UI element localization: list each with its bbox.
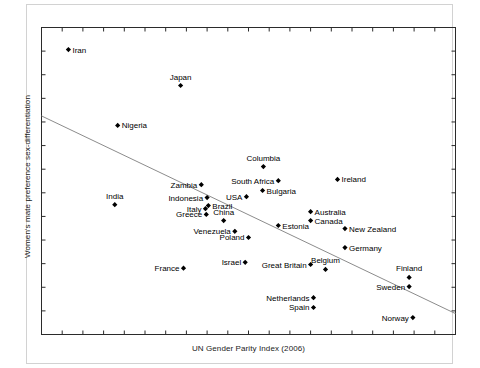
data-point <box>178 83 183 88</box>
data-point-label: Poland <box>220 233 245 242</box>
data-point <box>311 295 316 300</box>
data-point <box>243 260 248 265</box>
data-point <box>410 315 415 320</box>
data-point-label: USA <box>226 192 242 201</box>
data-point-label: France <box>155 264 180 273</box>
data-point <box>276 178 281 183</box>
data-point-label: Nigeria <box>122 121 147 130</box>
data-point <box>115 123 120 128</box>
data-point-label: Zambia <box>171 180 198 189</box>
data-point-label: Australia <box>315 207 346 216</box>
data-point <box>407 275 412 280</box>
chart-page: IranJapanNigeriaColumbiaSouth AfricaIrel… <box>0 0 480 368</box>
data-point <box>335 177 340 182</box>
data-point-label: Israel <box>222 258 242 267</box>
data-point <box>276 223 281 228</box>
data-point <box>342 226 347 231</box>
data-point-label: Bulgaria <box>267 186 296 195</box>
data-point-label: Canada <box>315 216 343 225</box>
data-point <box>308 209 313 214</box>
data-point <box>204 212 209 217</box>
x-axis-title: UN Gender Parity Index (2006) <box>41 344 456 353</box>
data-point-label: South Africa <box>231 176 274 185</box>
data-point <box>66 47 71 52</box>
data-point-label: Ireland <box>342 175 366 184</box>
data-point-label: Spain <box>289 303 309 312</box>
data-point <box>342 245 347 250</box>
data-point-label: Germany <box>349 243 382 252</box>
scatter-plot: IranJapanNigeriaColumbiaSouth AfricaIrel… <box>0 0 480 368</box>
data-point-label: Estonia <box>282 221 309 230</box>
data-point <box>311 305 316 310</box>
data-point-label: Norway <box>382 313 409 322</box>
y-axis-title: Women's mate preference sex-differentiat… <box>23 77 32 277</box>
data-point <box>323 267 328 272</box>
data-point-label: Japan <box>170 73 192 82</box>
data-point <box>221 218 226 223</box>
data-point <box>260 188 265 193</box>
data-point <box>407 284 412 289</box>
data-point-label: Greece <box>176 210 202 219</box>
data-point-label: Great Britain <box>262 260 307 269</box>
data-point <box>199 182 204 187</box>
data-point-label: New Zealand <box>349 224 396 233</box>
data-point <box>246 235 251 240</box>
data-point-label: India <box>106 192 123 201</box>
data-point <box>181 266 186 271</box>
data-point-label: Iran <box>72 45 86 54</box>
data-point-label: Columbia <box>246 154 280 163</box>
data-point <box>261 164 266 169</box>
data-point <box>112 202 117 207</box>
data-point-label: Netherlands <box>266 293 309 302</box>
data-point <box>244 194 249 199</box>
data-point-label: Sweden <box>376 282 405 291</box>
data-point-label: Belgium <box>311 256 340 265</box>
data-point-label: Indonesia <box>168 193 203 202</box>
data-point-label: Finland <box>396 264 422 273</box>
data-point-label: China <box>213 208 234 217</box>
